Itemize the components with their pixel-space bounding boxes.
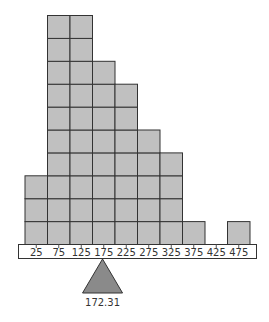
histogram-cell	[115, 222, 138, 245]
histogram-cell	[228, 222, 251, 245]
axis-ticks: 2575125175225275325375425475	[30, 245, 248, 259]
axis-tick-label: 25	[30, 247, 43, 258]
histogram-cell	[160, 176, 183, 199]
histogram-cell	[93, 199, 116, 222]
histogram-cell	[93, 153, 116, 176]
histogram-cell	[25, 222, 48, 245]
histogram-cell	[48, 107, 71, 130]
histogram-cell	[138, 130, 161, 153]
histogram-cell	[48, 130, 71, 153]
histogram-cell	[48, 199, 71, 222]
axis-tick-label: 475	[229, 247, 248, 258]
histogram-cell	[70, 16, 93, 39]
histogram-cell	[70, 61, 93, 84]
histogram-cell	[48, 84, 71, 107]
histogram-cell	[115, 153, 138, 176]
histogram-cell	[70, 222, 93, 245]
histogram-cell	[183, 222, 206, 245]
histogram-cell	[138, 176, 161, 199]
histogram-cell	[25, 176, 48, 199]
histogram-cell	[70, 153, 93, 176]
balance-histogram-chart: 2575125175225275325375425475 172.31	[0, 0, 269, 322]
axis-tick-label: 125	[72, 247, 91, 258]
axis-tick-label: 75	[52, 247, 65, 258]
histogram-cell	[93, 222, 116, 245]
histogram-cell	[160, 199, 183, 222]
histogram-cell	[115, 130, 138, 153]
mean-value-label: 172.31	[85, 297, 120, 308]
histogram-cell	[138, 153, 161, 176]
axis-tick-label: 325	[162, 247, 181, 258]
histogram-cell	[160, 153, 183, 176]
histogram-cell	[48, 176, 71, 199]
histogram-cell	[93, 84, 116, 107]
axis-tick-label: 225	[117, 247, 136, 258]
histogram-cell	[93, 176, 116, 199]
histogram-cell	[115, 199, 138, 222]
histogram-cell	[93, 61, 116, 84]
histogram-cell	[48, 16, 71, 39]
histogram-cell	[160, 222, 183, 245]
histogram-cell	[70, 176, 93, 199]
histogram-cells	[25, 16, 250, 245]
histogram-cell	[48, 38, 71, 61]
histogram-cell	[25, 199, 48, 222]
axis-tick-label: 425	[207, 247, 226, 258]
histogram-cell	[48, 61, 71, 84]
fulcrum-triangle-icon	[83, 259, 123, 293]
axis-tick-label: 375	[184, 247, 203, 258]
histogram-cell	[138, 199, 161, 222]
histogram-cell	[48, 153, 71, 176]
histogram-cell	[93, 130, 116, 153]
histogram-cell	[48, 222, 71, 245]
histogram-cell	[115, 84, 138, 107]
axis-tick-label: 175	[94, 247, 113, 258]
histogram-cell	[93, 107, 116, 130]
histogram-cell	[70, 107, 93, 130]
histogram-cell	[115, 107, 138, 130]
histogram-cell	[115, 176, 138, 199]
axis-tick-label: 275	[139, 247, 158, 258]
histogram-cell	[138, 222, 161, 245]
histogram-cell	[70, 84, 93, 107]
histogram-cell	[70, 38, 93, 61]
histogram-cell	[70, 199, 93, 222]
histogram-cell	[70, 130, 93, 153]
